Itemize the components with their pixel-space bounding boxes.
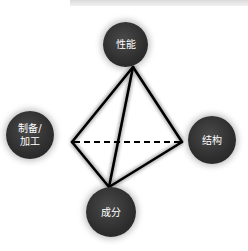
edge-right-bottom bbox=[109, 142, 182, 187]
node-processing-label: 制备/ 加工 bbox=[18, 122, 41, 148]
node-structure-label: 结构 bbox=[202, 134, 222, 147]
node-performance-label: 性能 bbox=[116, 38, 136, 51]
node-composition-label: 成分 bbox=[101, 206, 121, 219]
node-structure: 结构 bbox=[188, 116, 236, 164]
edge-left-bottom bbox=[72, 142, 109, 187]
node-processing: 制备/ 加工 bbox=[6, 111, 54, 159]
node-performance: 性能 bbox=[103, 22, 148, 67]
edge-apex-right bbox=[133, 67, 182, 142]
node-composition: 成分 bbox=[86, 187, 136, 237]
